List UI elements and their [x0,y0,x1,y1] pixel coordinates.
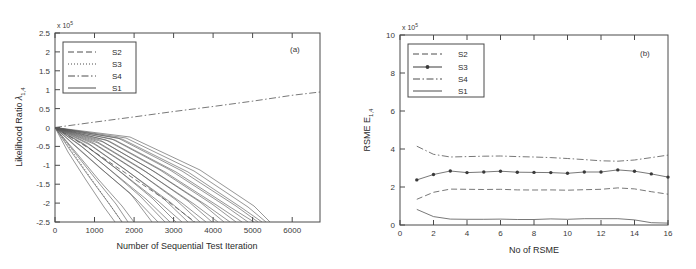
legend-label: S2 [458,50,468,59]
legend-box-a [63,42,136,93]
legend-b[interactable]: S2 S3 S4 S1 [348,0,696,269]
legend-label: S3 [458,63,468,72]
legend-label: S1 [458,87,468,96]
legend-label: S4 [458,75,468,84]
legend-label: S3 [112,60,122,69]
legend-label: S2 [112,48,122,57]
legend-box-b [408,44,484,97]
legend-marker-icon [426,65,430,69]
legend-label: S4 [112,72,122,81]
panel-a: x 105 2.5 2 1.5 1 0.5 [0,0,348,269]
legend-label: S1 [112,84,122,93]
legend-a[interactable]: S2 S3 S4 S1 [0,0,348,269]
panel-b: x 105 10 8 6 4 2 0 [348,0,696,269]
figure-container: x 105 2.5 2 1.5 1 0.5 [0,0,696,269]
